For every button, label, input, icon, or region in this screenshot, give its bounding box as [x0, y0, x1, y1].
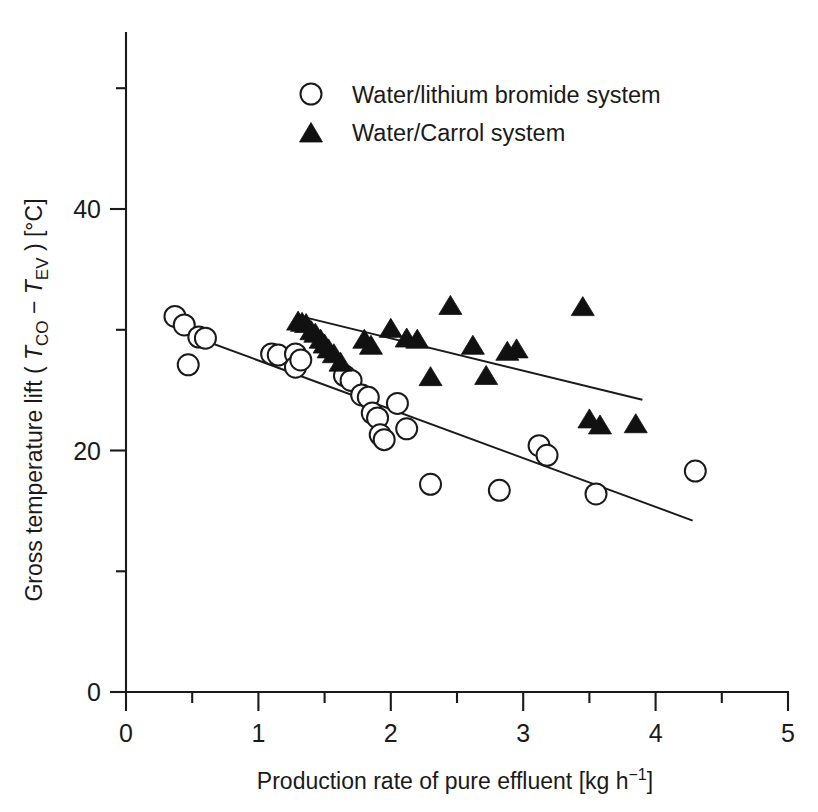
legend-label: Water/lithium bromide system — [352, 82, 661, 108]
data-point-open-circle — [489, 480, 510, 501]
scatter-plot: 0 20 40 0 1 2 3 4 5 Producti — [0, 0, 818, 812]
y-axis-tick-labels: 0 20 40 — [73, 195, 101, 706]
x-axis-tick-labels: 0 1 2 3 4 5 — [119, 719, 795, 747]
legend-filled-triangle-icon — [300, 123, 323, 143]
x-tick-label: 4 — [649, 719, 663, 747]
data-markers-layer — [164, 295, 705, 504]
y-axis-title-s1: CO — [33, 320, 52, 346]
data-point-open-circle — [178, 354, 199, 375]
x-tick-label: 2 — [384, 719, 398, 747]
x-axis-title-main: Production rate of pure effluent [kg h — [257, 768, 629, 794]
x-axis-title-tail: ] — [647, 768, 653, 794]
y-axis-title: Gross temperature lift ( TCO − TEV ) [°C… — [21, 198, 52, 601]
y-tick-label: 40 — [73, 195, 101, 223]
legend-item-1: Water/Carrol system — [300, 120, 566, 146]
y-tick-label: 20 — [73, 437, 101, 465]
y-axis-title-p1: Gross temperature lift ( — [21, 360, 47, 602]
data-point-open-circle — [420, 474, 441, 495]
data-point-open-circle — [396, 418, 417, 439]
data-point-filled-triangle — [475, 365, 498, 384]
data-point-open-circle — [195, 328, 216, 349]
x-tick-label: 5 — [781, 719, 795, 747]
x-tick-label: 1 — [251, 719, 265, 747]
x-axis-ticks — [126, 692, 788, 711]
data-point-filled-triangle — [439, 295, 462, 314]
y-tick-label: 0 — [87, 678, 101, 706]
y-axis-title-p2: ) [°C] — [21, 198, 47, 257]
y-axis-title-minus: − — [21, 294, 47, 320]
data-point-open-circle — [374, 429, 395, 450]
y-axis-ticks — [110, 88, 126, 692]
x-axis-title-sup: −1 — [629, 766, 647, 783]
data-point-filled-triangle — [624, 414, 647, 433]
y-axis-title-s2: EV — [33, 257, 52, 280]
data-point-filled-triangle — [571, 297, 594, 316]
legend-item-0: Water/lithium bromide system — [301, 82, 661, 108]
data-point-filled-triangle — [419, 367, 442, 386]
data-point-open-circle — [586, 483, 607, 504]
data-point-filled-triangle — [461, 335, 484, 354]
x-tick-label: 3 — [516, 719, 530, 747]
x-axis-title: Production rate of pure effluent [kg h−1… — [257, 766, 653, 794]
data-point-open-circle — [537, 445, 558, 466]
legend-open-circle-icon — [301, 84, 322, 105]
x-tick-label: 0 — [119, 719, 133, 747]
chart-legend: Water/lithium bromide system Water/Carro… — [300, 82, 661, 146]
data-point-open-circle — [685, 461, 706, 482]
data-point-filled-triangle — [379, 318, 402, 337]
legend-label: Water/Carrol system — [352, 120, 565, 146]
data-point-open-circle — [387, 393, 408, 414]
chart-figure: 0 20 40 0 1 2 3 4 5 Producti — [0, 0, 818, 812]
data-point-open-circle — [290, 349, 311, 370]
